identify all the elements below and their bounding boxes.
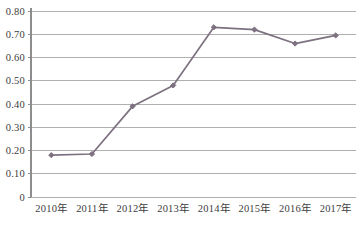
y-axis-tick-label: 0.50 (6, 75, 25, 86)
x-axis-tick-label: 2012年 (117, 202, 149, 214)
y-axis-tick-label: 0.60 (6, 52, 25, 63)
x-axis-tick-label: 2014年 (198, 202, 230, 214)
x-axis-tick-label: 2011年 (76, 202, 108, 214)
y-axis-tick-label: 0.10 (6, 168, 25, 179)
x-axis-tick-label: 2016年 (279, 202, 311, 214)
x-axis-tick-label: 2015年 (238, 202, 270, 214)
y-axis-tick-label: 0 (20, 192, 25, 203)
y-axis-tick-labels: 00.100.200.300.400.500.600.700.80 (6, 6, 25, 203)
y-axis-tick-label: 0.80 (6, 6, 25, 17)
x-axis-tick-label: 2017年 (320, 202, 352, 214)
y-axis-tick-label: 0.40 (6, 99, 25, 110)
y-axis-tick-label: 0.20 (6, 145, 25, 156)
chart-canvas: 00.100.200.300.400.500.600.700.80 2010年2… (0, 0, 364, 230)
y-axis-tick-label: 0.30 (6, 122, 25, 133)
line-chart: 00.100.200.300.400.500.600.700.80 2010年2… (0, 0, 364, 230)
y-axis-tick-label: 0.70 (6, 29, 25, 40)
x-axis-tick-label: 2013年 (157, 202, 189, 214)
x-axis-tick-label: 2010年 (35, 202, 67, 214)
